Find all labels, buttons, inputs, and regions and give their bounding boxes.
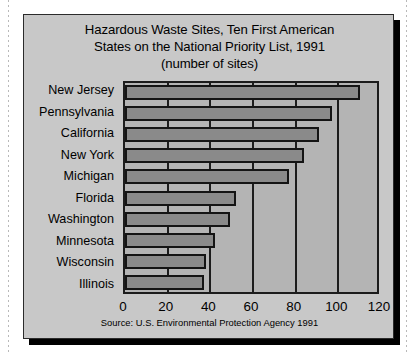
x-tick-label-20: 20 xyxy=(158,298,173,316)
figure-page: Hazardous Waste Sites, Ten First America… xyxy=(0,0,415,352)
chart-title-line-3: (number of sites) xyxy=(24,55,395,72)
chart-title-line-2: States on the National Priority List, 19… xyxy=(24,38,395,55)
bar-row[interactable] xyxy=(125,190,377,207)
bar-row[interactable] xyxy=(125,126,377,143)
bar-minnesota[interactable] xyxy=(125,233,215,248)
x-tick-label-120: 120 xyxy=(368,298,390,316)
bar-california[interactable] xyxy=(125,127,319,142)
y-label-florida: Florida xyxy=(24,190,119,207)
bar-row[interactable] xyxy=(125,211,377,228)
bar-new-york[interactable] xyxy=(125,148,304,163)
bar-row[interactable] xyxy=(125,105,377,122)
y-axis-category-labels: New JerseyPennsylvaniaCaliforniaNew York… xyxy=(24,81,119,294)
source-note: Source: U.S. Environmental Protection Ag… xyxy=(24,317,395,328)
page-margin-rule-left xyxy=(8,0,9,352)
bar-row[interactable] xyxy=(125,274,377,291)
x-tick-label-80: 80 xyxy=(286,298,301,316)
y-label-wisconsin: Wisconsin xyxy=(24,254,119,271)
bar-row[interactable] xyxy=(125,232,377,249)
y-label-new-jersey: New Jersey xyxy=(24,82,119,99)
bar-michigan[interactable] xyxy=(125,169,289,184)
chart-card: Hazardous Waste Sites, Ten First America… xyxy=(23,14,394,339)
y-label-california: California xyxy=(24,125,119,142)
y-label-new-york: New York xyxy=(24,147,119,164)
bar-row[interactable] xyxy=(125,84,377,101)
chart-title: Hazardous Waste Sites, Ten First America… xyxy=(24,21,395,72)
bar-row[interactable] xyxy=(125,253,377,270)
bar-pennsylvania[interactable] xyxy=(125,106,332,121)
bar-wisconsin[interactable] xyxy=(125,254,206,269)
y-label-michigan: Michigan xyxy=(24,168,119,185)
y-label-washington: Washington xyxy=(24,211,119,228)
y-label-minnesota: Minnesota xyxy=(24,233,119,250)
y-label-pennsylvania: Pennsylvania xyxy=(24,104,119,121)
chart-title-line-1: Hazardous Waste Sites, Ten First America… xyxy=(24,21,395,38)
bar-row[interactable] xyxy=(125,147,377,164)
page-margin-rule-right xyxy=(406,0,407,352)
bar-washington[interactable] xyxy=(125,212,230,227)
bar-illinois[interactable] xyxy=(125,275,204,290)
x-tick-label-40: 40 xyxy=(201,298,216,316)
y-label-illinois: Illinois xyxy=(24,276,119,293)
bar-row[interactable] xyxy=(125,168,377,185)
x-tick-label-0: 0 xyxy=(119,298,126,316)
bar-new-jersey[interactable] xyxy=(125,85,360,100)
x-tick-label-60: 60 xyxy=(244,298,259,316)
x-tick-label-100: 100 xyxy=(325,298,347,316)
bar-florida[interactable] xyxy=(125,191,236,206)
plot-area xyxy=(123,81,379,294)
x-axis-tick-labels: 020406080100120 xyxy=(123,298,379,316)
bar-series xyxy=(125,83,377,292)
